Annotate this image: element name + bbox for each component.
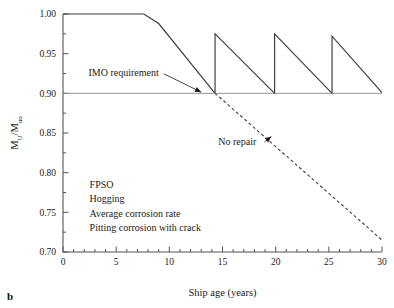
x-tick-label: 0	[61, 257, 66, 267]
annotation-imo-label: IMO requirement	[89, 67, 159, 78]
y-tick-label: 0.90	[39, 89, 56, 99]
y-tick-label: 1.00	[39, 9, 56, 19]
x-tick-label: 5	[114, 257, 119, 267]
legend-line-3: Pitting corrosion with crack	[90, 222, 201, 233]
series-with-repair	[63, 14, 382, 93]
x-tick-label: 10	[165, 257, 175, 267]
y-tick-label: 0.95	[39, 49, 56, 59]
x-axis-title: Ship age (years)	[188, 287, 257, 299]
legend-line-1: Hogging	[90, 193, 125, 204]
chart-svg: 0510152025300.700.750.800.850.900.951.00…	[0, 0, 394, 308]
annotation-imo-leader	[164, 74, 201, 92]
y-axis-title: MU/Muo	[9, 116, 23, 150]
y-tick-label: 0.75	[39, 208, 56, 218]
figure-container: 0510152025300.700.750.800.850.900.951.00…	[0, 0, 394, 308]
y-tick-label: 0.70	[39, 247, 56, 257]
x-tick-label: 20	[271, 257, 281, 267]
annotation-norepair-label: No repair	[218, 136, 257, 147]
x-tick-label: 30	[377, 257, 387, 267]
y-tick-label: 0.80	[39, 168, 56, 178]
svg-text:MU/Muo: MU/Muo	[9, 116, 23, 150]
legend-line-0: FPSO	[90, 179, 114, 190]
series-no-repair	[215, 93, 382, 240]
x-tick-label: 25	[324, 257, 334, 267]
legend-line-2: Average corrosion rate	[90, 208, 181, 219]
x-tick-label: 15	[218, 257, 228, 267]
y-tick-label: 0.85	[39, 128, 56, 138]
